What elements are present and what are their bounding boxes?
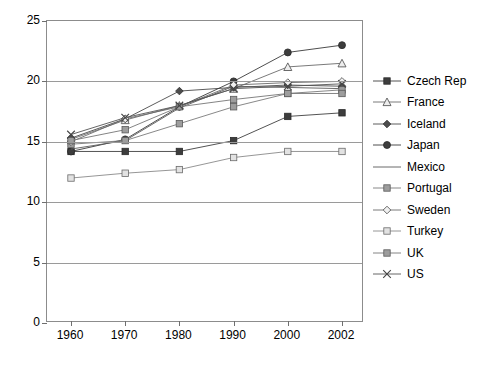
marker-filled-square (285, 113, 291, 119)
marker-filled-square (384, 78, 390, 84)
marker-open-diamond (383, 206, 391, 214)
marker-gray-square (339, 90, 345, 96)
gridline-y-20 (47, 81, 362, 82)
legend-item-japan[interactable]: Japan (372, 135, 487, 157)
series-line (71, 63, 342, 139)
marker-gray-square (68, 137, 74, 143)
marker-filled-square (339, 110, 345, 116)
legend-label: US (407, 267, 424, 281)
chart-root: 0510152025 196019701980199020002002 Czec… (0, 0, 489, 367)
marker-open-square (176, 166, 182, 172)
legend-item-uk[interactable]: UK (372, 242, 487, 264)
marker-open-square (122, 170, 128, 176)
x-axis-labels: 196019701980199020002002 (46, 322, 363, 350)
legend-symbol-filled-square-icon (372, 74, 402, 88)
gridline-y-5 (47, 263, 362, 264)
marker-open-square (285, 148, 291, 154)
legend-symbol-cross-x-icon (372, 267, 402, 281)
y-tick-label-15: 15 (27, 134, 40, 148)
legend-item-us[interactable]: US (372, 264, 487, 286)
legend-item-iceland[interactable]: Iceland (372, 113, 487, 135)
legend-symbol-open-square-icon (372, 224, 402, 238)
marker-gray-square (384, 250, 390, 256)
y-tick-mark (42, 81, 47, 82)
x-tick-label-1970: 1970 (111, 328, 138, 342)
chart-series-layer (47, 21, 364, 323)
marker-gray-square (176, 120, 182, 126)
y-tick-label-25: 25 (27, 13, 40, 27)
legend-label: Portugal (407, 181, 452, 195)
y-tick-mark (42, 142, 47, 143)
series-line (71, 93, 342, 140)
x-tick-label-1990: 1990 (219, 328, 246, 342)
legend-symbol-filled-circle-icon (372, 138, 402, 152)
y-tick-mark (42, 263, 47, 264)
series-line (71, 151, 342, 178)
legend-symbol-gray-square-icon (372, 181, 402, 195)
legend-item-mexico[interactable]: Mexico (372, 156, 487, 178)
y-axis-labels: 0510152025 (0, 20, 40, 322)
gridline-y-10 (47, 202, 362, 203)
legend-item-sweden[interactable]: Sweden (372, 199, 487, 221)
legend-label: Iceland (407, 117, 446, 131)
marker-gray-square (384, 185, 390, 191)
legend-item-portugal[interactable]: Portugal (372, 178, 487, 200)
marker-filled-square (230, 137, 236, 143)
y-tick-label-20: 20 (27, 73, 40, 87)
legend-item-turkey[interactable]: Turkey (372, 221, 487, 243)
marker-filled-square (176, 148, 182, 154)
marker-gray-square (122, 137, 128, 143)
series-turkey (68, 148, 345, 181)
marker-open-square (384, 228, 390, 234)
series-line (71, 84, 342, 135)
marker-filled-circle (284, 49, 291, 56)
series-line (71, 45, 342, 151)
legend-label: UK (407, 246, 424, 260)
legend-label: France (407, 95, 444, 109)
y-tick-mark (42, 202, 47, 203)
marker-gray-square (230, 96, 236, 102)
marker-gray-square (122, 127, 128, 133)
legend-label: Japan (407, 138, 440, 152)
series-france (67, 59, 346, 143)
x-tick-label-2002: 2002 (328, 328, 355, 342)
legend-item-czech-rep[interactable]: Czech Rep (372, 70, 487, 92)
plot-area (46, 20, 363, 322)
legend-label: Sweden (407, 203, 450, 217)
series-japan (68, 42, 346, 155)
series-uk (68, 90, 345, 144)
series-us (67, 80, 346, 138)
chart-legend: Czech RepFranceIcelandJapanMexicoPortuga… (372, 70, 487, 285)
gridline-y-15 (47, 142, 362, 143)
series-czech-rep (68, 110, 345, 155)
y-tick-label-0: 0 (33, 315, 40, 329)
legend-label: Turkey (407, 224, 443, 238)
legend-symbol-open-diamond-icon (372, 203, 402, 217)
legend-label: Mexico (407, 160, 445, 174)
marker-filled-diamond (176, 87, 184, 95)
legend-label: Czech Rep (407, 74, 466, 88)
y-tick-mark (42, 21, 47, 22)
marker-filled-square (122, 148, 128, 154)
marker-open-square (230, 154, 236, 160)
legend-symbol-filled-diamond-icon (372, 117, 402, 131)
marker-gray-square (285, 90, 291, 96)
marker-filled-circle (339, 42, 346, 49)
x-tick-label-1980: 1980 (165, 328, 192, 342)
x-tick-label-1960: 1960 (57, 328, 84, 342)
legend-symbol-open-triangle-icon (372, 95, 402, 109)
marker-open-square (339, 148, 345, 154)
legend-symbol-none-icon (372, 160, 402, 174)
legend-symbol-gray-square-icon (372, 246, 402, 260)
legend-item-france[interactable]: France (372, 92, 487, 114)
marker-gray-square (230, 104, 236, 110)
y-tick-label-5: 5 (33, 255, 40, 269)
marker-filled-diamond (383, 120, 391, 128)
y-tick-label-10: 10 (27, 194, 40, 208)
series-line (71, 90, 342, 144)
marker-filled-circle (384, 142, 391, 149)
x-tick-label-2000: 2000 (273, 328, 300, 342)
marker-open-square (68, 175, 74, 181)
